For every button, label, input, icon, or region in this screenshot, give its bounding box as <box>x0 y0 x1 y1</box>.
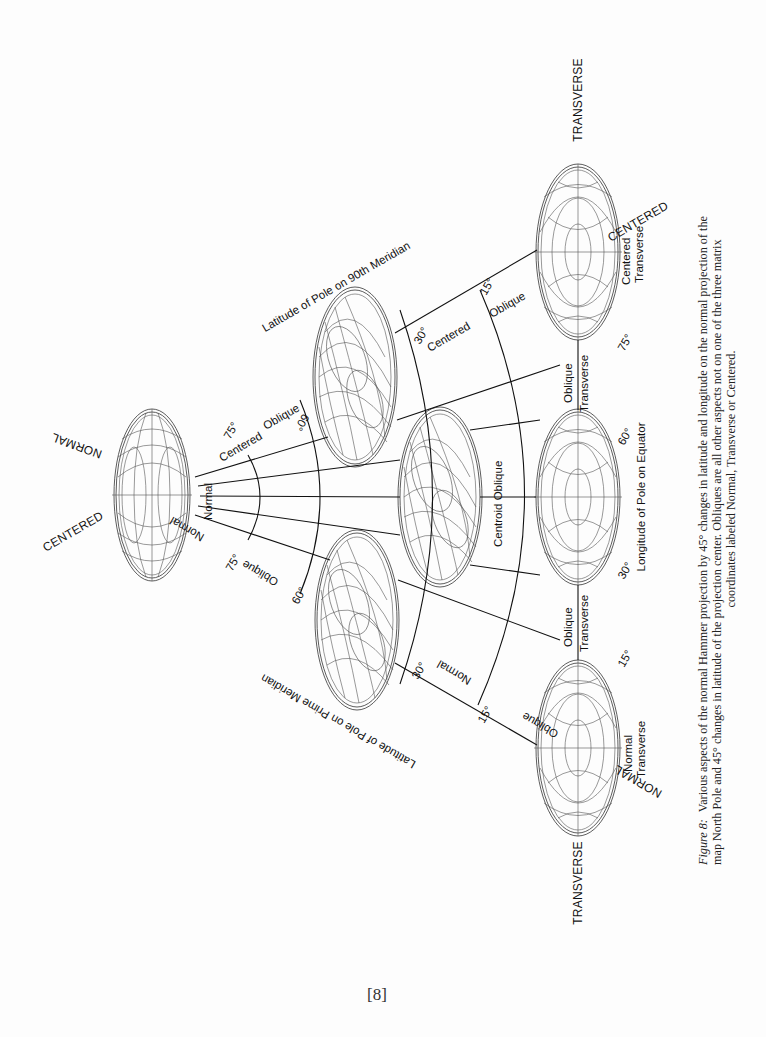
label-15-top: 15° <box>477 276 496 297</box>
label-normal-mid: Normal <box>202 483 214 520</box>
label-oblique-lower: Oblique <box>562 607 574 647</box>
axis-title-lat-prime: Latitude of Pole on Prime Meridian <box>259 672 418 771</box>
label-15-right: 15° <box>615 648 634 669</box>
label-75-right: 75° <box>615 332 634 353</box>
axis-title-lat-90th: Latitude of Pole on 90th Meridian <box>260 239 412 334</box>
caption-line-2: map North Pole and 45° changes in latitu… <box>710 239 724 865</box>
label-normal-top: NORMAL <box>49 430 103 461</box>
label-centered-transverse-1: Centered <box>620 238 632 285</box>
ellipse-centroid-oblique <box>398 407 482 587</box>
figure-caption: Figure 8: Various aspects of the normal … <box>696 216 738 866</box>
page-number: [8] <box>367 985 387 1004</box>
label-normal-30: Normal <box>435 658 473 687</box>
label-normal-transverse-2: Transverse <box>635 721 647 778</box>
ellipse-longitude-equator <box>534 409 622 585</box>
label-transverse-bottom: TRANSVERSE <box>571 841 585 924</box>
ellipse-normal-centered <box>112 409 192 581</box>
caption-line-1: Various aspects of the normal Hammer pro… <box>696 216 710 812</box>
caption-line-3: coordinates labeled Normal, Transverse o… <box>724 351 738 608</box>
label-30-right: 30° <box>615 560 634 581</box>
ellipse-oblique-prime-60 <box>315 530 399 710</box>
label-60-bottom: 60° <box>289 585 308 606</box>
label-transverse-right: TRANSVERSE <box>571 58 585 141</box>
document-page: NORMAL CENTERED TRANSVERSE CENTERED TRAN… <box>0 0 766 1037</box>
ellipse-oblique-90th-60 <box>313 287 397 467</box>
label-15-bottom: 15° <box>475 704 494 725</box>
label-oblique-60-bottom: Oblique <box>240 558 280 588</box>
label-transverse-lower: Transverse <box>578 595 590 652</box>
caption-figure-number: Figure 8: <box>696 819 710 866</box>
label-oblique-upper: Oblique <box>562 363 574 403</box>
svg-text:Figure 8: Various aspect: Figure 8: Various aspects of the normal … <box>696 216 710 866</box>
ellipse-centered-transverse <box>534 164 622 340</box>
label-centered-top: CENTERED <box>40 509 106 555</box>
label-centroid-oblique: Centroid Oblique <box>492 461 504 547</box>
hammer-projection-diagram: NORMAL CENTERED TRANSVERSE CENTERED TRAN… <box>0 0 766 1037</box>
label-60-right: 60° <box>615 426 634 447</box>
label-centered-30: Centered <box>425 320 472 354</box>
label-normal-transverse-1: Normal <box>622 735 634 772</box>
axis-title-lon-equator: Longitude of Pole on Equator <box>635 422 647 571</box>
label-oblique-15-top: Oblique <box>487 290 527 320</box>
ellipse-normal-transverse <box>534 660 622 836</box>
label-30-bottom: 30° <box>409 660 428 681</box>
label-75-bottom: 75° <box>223 552 242 573</box>
label-75-top: 75° <box>221 420 240 441</box>
label-transverse-upper: Transverse <box>578 355 590 412</box>
label-centered-transverse-2: Transverse <box>633 226 645 283</box>
